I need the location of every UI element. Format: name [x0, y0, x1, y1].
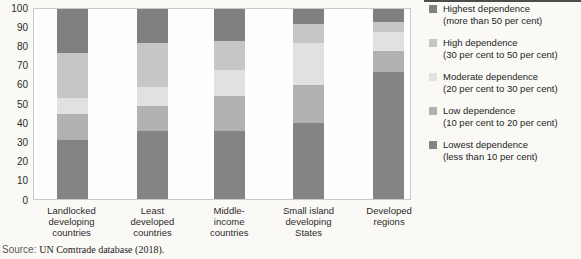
source-prefix: Source:: [2, 244, 36, 255]
bar-segment: [373, 22, 404, 32]
bar-3: [214, 9, 245, 199]
bar-segment: [293, 24, 324, 43]
bar-segment: [57, 140, 88, 199]
bar-segment: [137, 43, 168, 87]
y-tick-label: 40: [0, 118, 28, 129]
legend-label: Highest dependence(more than 50 per cent…: [443, 3, 542, 26]
bar-segment: [57, 53, 88, 99]
source-text: UN Comtrade database (2018).: [39, 244, 164, 255]
x-axis-label: Middle- income countries: [184, 205, 274, 238]
y-tick-label: 50: [0, 99, 28, 110]
x-axis-labels: Landlocked developing countriesLeast dev…: [33, 205, 411, 243]
bar-2: [137, 9, 168, 199]
bar-4: [293, 9, 324, 199]
stacked-bar-chart-figure: 0102030405060708090100 Landlocked develo…: [0, 0, 581, 259]
y-tick-label: 70: [0, 60, 28, 71]
y-tick-label: 0: [0, 195, 28, 206]
chart-legend: Highest dependence(more than 50 per cent…: [429, 3, 579, 162]
bar-segment: [214, 96, 245, 130]
legend-swatch-icon: [429, 5, 437, 13]
x-axis-label: Small island developing States: [264, 205, 354, 238]
x-axis-label: Developed regions: [344, 205, 434, 227]
y-tick-label: 30: [0, 137, 28, 148]
bars-layer: [34, 9, 410, 199]
bar-segment: [214, 41, 245, 70]
legend-swatch-icon: [429, 107, 437, 115]
y-tick-label: 10: [0, 175, 28, 186]
bar-segment: [137, 131, 168, 199]
bar-segment: [373, 9, 404, 22]
legend-swatch-icon: [429, 39, 437, 47]
x-axis-label: Landlocked developing countries: [27, 205, 117, 238]
legend-swatch-icon: [429, 141, 437, 149]
bar-segment: [137, 106, 168, 131]
legend-item: Low dependence(10 per cent to 20 per cen…: [429, 105, 579, 128]
bar-5: [373, 9, 404, 199]
bar-segment: [137, 9, 168, 43]
cropped-page-rule: [424, 0, 581, 2]
bar-1: [57, 9, 88, 199]
y-tick-label: 80: [0, 41, 28, 52]
legend-label: High dependence(30 per cent to 50 per ce…: [443, 37, 558, 60]
legend-item: Lowest dependence(less than 10 per cent): [429, 139, 579, 162]
y-axis: 0102030405060708090100: [0, 8, 28, 200]
legend-label: Low dependence(10 per cent to 20 per cen…: [443, 105, 558, 128]
bar-segment: [214, 70, 245, 97]
bar-segment: [293, 43, 324, 85]
legend-label: Moderate dependence(20 per cent to 30 pe…: [443, 71, 558, 94]
bar-segment: [373, 72, 404, 199]
y-tick-label: 90: [0, 22, 28, 33]
plot-area: [33, 8, 411, 200]
y-tick-label: 100: [0, 3, 28, 14]
legend-item: High dependence(30 per cent to 50 per ce…: [429, 37, 579, 60]
bar-segment: [293, 85, 324, 123]
bar-segment: [214, 9, 245, 41]
bar-segment: [57, 9, 88, 53]
bar-segment: [373, 51, 404, 72]
legend-swatch-icon: [429, 73, 437, 81]
source-note: Source: UN Comtrade database (2018).: [2, 244, 164, 255]
legend-label: Lowest dependence(less than 10 per cent): [443, 139, 538, 162]
bar-segment: [137, 87, 168, 106]
bar-segment: [293, 9, 324, 24]
legend-item: Moderate dependence(20 per cent to 30 pe…: [429, 71, 579, 94]
bar-segment: [57, 114, 88, 141]
y-tick-label: 20: [0, 156, 28, 167]
bar-segment: [214, 131, 245, 199]
bar-segment: [293, 123, 324, 199]
y-tick-label: 60: [0, 79, 28, 90]
legend-item: Highest dependence(more than 50 per cent…: [429, 3, 579, 26]
bar-segment: [373, 32, 404, 51]
bar-segment: [57, 98, 88, 113]
